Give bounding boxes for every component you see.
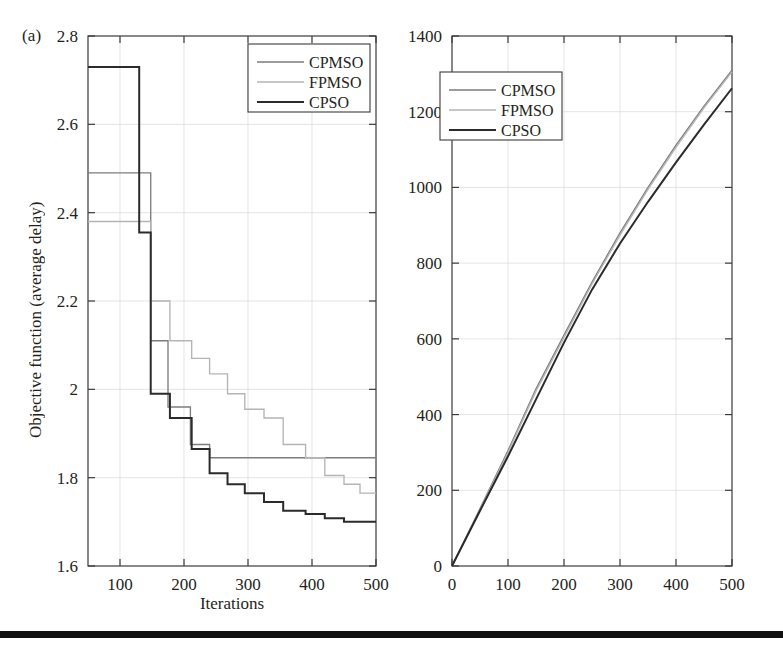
series-line-fpmso: [88, 222, 376, 494]
y-tick-label: 1.6: [57, 557, 78, 576]
x-tick-label: 100: [107, 575, 133, 594]
chart-panel-left: (a) Objective function (average delay) I…: [0, 0, 392, 620]
y-tick-label: 2.6: [57, 115, 78, 134]
legend: CPMSOFPMSOCPSO: [440, 72, 562, 140]
x-tick-label: 500: [719, 575, 745, 594]
y-tick-label: 400: [417, 406, 443, 425]
series-line-fpmso: [452, 72, 732, 566]
y-tick-label: 200: [417, 481, 443, 500]
legend-label-cpso: CPSO: [501, 122, 541, 139]
legend-label-fpmso: FPMSO: [309, 74, 361, 91]
y-tick-label: 2.4: [57, 204, 79, 223]
x-tick-label: 100: [495, 575, 521, 594]
y-tick-label: 1000: [408, 178, 442, 197]
plot-svg-right: 0100200300400500020040060080010001200140…: [392, 0, 783, 600]
legend: CPMSOFPMSOCPSO: [248, 44, 370, 112]
x-tick-label: 400: [663, 575, 689, 594]
y-tick-label: 0: [434, 557, 443, 576]
series-line-cpso: [88, 67, 376, 522]
bottom-rule: [0, 631, 783, 638]
figure-container: (a) Objective function (average delay) I…: [0, 0, 783, 649]
y-axis-label-left: Objective function (average delay): [26, 110, 46, 530]
y-tick-label: 800: [417, 254, 443, 273]
series-line-cpmso: [88, 173, 376, 458]
y-tick-label: 1400: [408, 27, 442, 46]
x-tick-label: 500: [363, 575, 389, 594]
legend-label-cpso: CPSO: [309, 94, 349, 111]
x-tick-label: 400: [299, 575, 325, 594]
x-tick-label: 300: [235, 575, 261, 594]
y-tick-label: 2: [70, 380, 79, 399]
x-axis-label-left: Iterations: [88, 594, 376, 614]
panel-label-a: (a): [22, 26, 41, 46]
series-line-cpso: [452, 88, 732, 566]
chart-panel-right: Fitness function evaluations Iterations …: [392, 0, 783, 620]
plot-svg-left: 1002003004005001.61.822.22.42.62.8CPMSOF…: [0, 0, 392, 600]
x-tick-label: 200: [171, 575, 197, 594]
y-tick-label: 1.8: [57, 469, 78, 488]
x-tick-label: 200: [551, 575, 577, 594]
legend-label-cpmso: CPMSO: [501, 82, 555, 99]
y-tick-label: 600: [417, 330, 443, 349]
x-tick-label: 300: [607, 575, 633, 594]
y-tick-label: 1200: [408, 103, 442, 122]
legend-label-cpmso: CPMSO: [309, 54, 363, 71]
legend-label-fpmso: FPMSO: [501, 102, 553, 119]
y-tick-label: 2.2: [57, 292, 78, 311]
y-tick-label: 2.8: [57, 27, 78, 46]
x-tick-label: 0: [448, 575, 457, 594]
